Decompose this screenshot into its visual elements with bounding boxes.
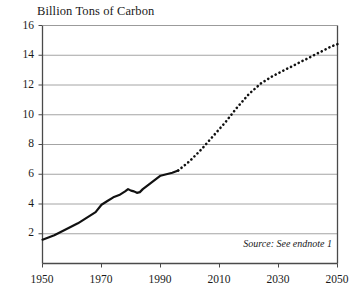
source-annotation: Source: See endnote 1 [243,238,332,249]
x-tick-label-2030: 2030 [253,274,303,286]
x-tick-label-2010: 2010 [194,274,244,286]
plot-area [0,0,360,301]
y-tick-label-2: 2 [4,227,34,239]
x-tick-label-2050: 2050 [312,274,360,286]
y-tick-label-14: 14 [4,49,34,61]
projected-series-line [178,44,337,170]
data-series-layer [43,44,338,240]
y-tick-label-6: 6 [4,168,34,180]
y-tick-label-4: 4 [4,198,34,210]
gridlines [43,26,338,234]
x-tick-label-1950: 1950 [17,274,67,286]
y-tick-label-8: 8 [4,138,34,150]
y-tick-label-16: 16 [4,20,34,32]
y-tick-label-10: 10 [4,109,34,121]
chart-title: Billion Tons of Carbon [37,4,154,19]
x-tick-label-1990: 1990 [135,274,185,286]
y-tick-label-12: 12 [4,79,34,91]
historical-series-line [43,171,179,240]
x-tick-label-1970: 1970 [76,274,126,286]
carbon-emissions-chart: Billion Tons of Carbon 16 14 12 10 8 6 4… [0,0,360,301]
